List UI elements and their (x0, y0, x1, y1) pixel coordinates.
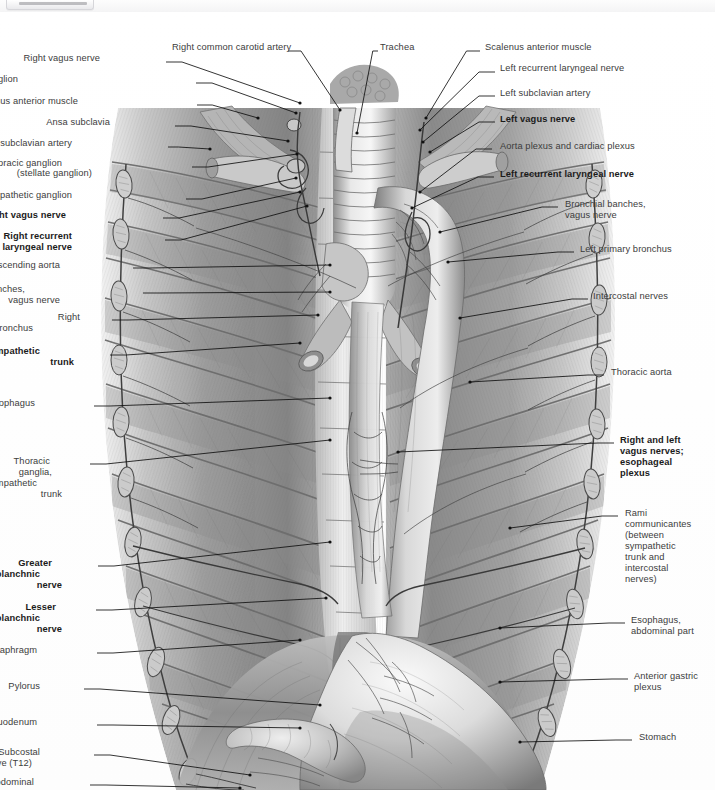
leader-dot-scalenus-anterior-muscle (424, 116, 427, 119)
leader-dot-left-recurrent-laryngeal-nerve (418, 128, 421, 131)
leader-dot-ansa-subclavia (286, 139, 289, 142)
label-right-and-left: Right and left (620, 435, 681, 446)
leader-dot-thoracic-aorta (468, 380, 471, 383)
label-intercostal-nerves: Intercostal nerves (593, 291, 668, 302)
label-nerve: nerve (37, 580, 62, 591)
label-trachea: Trachea (380, 42, 414, 53)
label-bronchial-banches: Bronchial banches, (565, 199, 646, 210)
leader-dot-sympathetic (298, 341, 301, 344)
label-primary-bronchus: primary bronchus (0, 323, 33, 334)
label-right: Right (58, 312, 80, 323)
leader-dot-rami (508, 526, 511, 529)
label-esophageal: esophageal (620, 457, 672, 468)
label-nerve-t12: nerve (T12) (0, 758, 32, 769)
label-esophagus: Esophagus, (631, 615, 681, 626)
label-vagus-nerves: vagus nerves; (620, 446, 684, 457)
leader-dot-left-subclavian-artery (421, 140, 424, 143)
leader-dot-diaphragm (298, 638, 301, 641)
label-plexus: plexus (634, 682, 661, 693)
leader-dot-right-subclavian-artery (208, 147, 211, 150)
label-right-vagus-nerve: Right vagus nerve (0, 210, 66, 221)
label-vagus-nerve: vagus nerve (8, 295, 60, 306)
label-sympathetic: Sympathetic (0, 346, 40, 357)
label-stomach: Stomach (639, 732, 676, 743)
label-subcostal: Subcostal (0, 747, 40, 758)
label-rami: Rami (625, 508, 647, 519)
leader-dot-stomach (518, 740, 521, 743)
leader-dot-ascending-aorta (328, 263, 331, 266)
label-sympathetic: sympathetic (625, 541, 676, 552)
leader-dot-duodenum (298, 726, 301, 729)
label-pylorus: Pylorus (8, 681, 40, 692)
viewer-tab-title-placeholder (19, 2, 87, 5)
leader-dot-abdominal (238, 786, 241, 789)
label-right-vagus-nerve: Right vagus nerve (23, 53, 100, 64)
label-vagus-nerve: vagus nerve (565, 210, 617, 221)
leader-dot-scalenus-anterior-muscle (256, 116, 259, 119)
label-trunk: trunk (41, 489, 62, 500)
label-abdominal: Abdominal (0, 777, 34, 788)
label-laryngeal-nerve: laryngeal nerve (2, 242, 72, 253)
label-right-common-carotid-artery: Right common carotid artery (172, 42, 291, 53)
leader-dot-subcostal (248, 773, 251, 776)
label-splanchnic: splanchnic (0, 569, 40, 580)
label-scalenus-anterior-muscle: Scalenus anterior muscle (0, 96, 78, 107)
label-left-recurrent-laryngeal-nerve: Left recurrent laryngeal nerve (500, 169, 634, 180)
label-aorta-plexus-and-cardiac-plexus: Aorta plexus and cardiac plexus (500, 141, 635, 152)
label-thoracic: Thoracic (14, 456, 50, 467)
leader-dot-thoracic (328, 438, 331, 441)
label-lesser: Lesser (25, 602, 56, 613)
leader-dot-aorta-plexus-and-cardiac-plexus (418, 190, 421, 193)
viewer-tab[interactable] (6, 0, 94, 10)
label-anterior-gastric: Anterior gastric (634, 671, 698, 682)
leader-dot-right-and-left (396, 450, 399, 453)
label-splanchnic: splanchnic (0, 613, 40, 624)
leader-dot-bronchial-banches (438, 230, 441, 233)
label-cervicothoracic-ganglion: Cervicothoracic ganglion (0, 158, 62, 169)
label-right-subclavian-artery: Right subclavian artery (0, 138, 72, 149)
anatomical-illustration (0, 12, 715, 790)
leader-dot-right-vagus-nerve (298, 101, 301, 104)
label-nerve: nerve (37, 624, 62, 635)
label-right-recurrent: Right recurrent (3, 231, 72, 242)
label-stellate-ganglion: (stellate ganglion) (17, 168, 92, 179)
leader-dot-esophagus (328, 396, 331, 399)
leader-dot-pylorus (318, 703, 321, 706)
label-between: (between (625, 530, 664, 541)
label-thoracic-aorta: Thoracic aorta (611, 367, 672, 378)
leader-dot-right-vagus-nerve (298, 190, 301, 193)
label-plexus: plexus (620, 468, 650, 479)
leader-dot-middle-cervical-sympathetic-ganglion (294, 111, 297, 114)
label-duodenum: Duodenum (0, 717, 37, 728)
leader-dot-anterior-gastric (498, 680, 501, 683)
label-left-primary-bronchus: Left primary bronchus (580, 244, 672, 255)
label-abdominal-part: abdominal part (631, 626, 694, 637)
anatomy-plate-page: Right vagus nerveMiddle cervical sympath… (0, 0, 715, 790)
leader-dot-cervicothoracic-ganglion (295, 152, 298, 155)
label-scalenus-anterior-muscle: Scalenus anterior muscle (485, 42, 592, 53)
label-trunk: trunk (50, 357, 74, 368)
label-left-recurrent-laryngeal-nerve: Left recurrent laryngeal nerve (500, 63, 624, 74)
label-ganglia: ganglia, (19, 467, 52, 478)
leader-dot-right-common-carotid-artery (338, 108, 341, 111)
leader-dot-sympathetic-ganglion (294, 176, 297, 179)
label-trunk-and: trunk and (625, 552, 665, 563)
leader-dot-trachea (355, 131, 358, 134)
label-nerves: nerves) (625, 574, 657, 585)
label-intercostal: intercostal (625, 563, 668, 574)
label-middle-cervical-sympathetic-ganglion: Middle cervical sympathetic ganglion (0, 74, 18, 85)
label-diaphragm: Diaphragm (0, 645, 37, 656)
leader-dot-greater (328, 540, 331, 543)
label-esophagus: Esophagus (0, 398, 35, 409)
leader-dot-bronchial-branches (328, 290, 331, 293)
label-ascending-aorta: Ascending aorta (0, 260, 60, 271)
leader-dot-left-recurrent-laryngeal-nerve (410, 206, 413, 209)
label-left-subclavian-artery: Left subclavian artery (500, 88, 590, 99)
label-sympathetic: sympathetic (0, 478, 37, 489)
leader-dot-intercostal-nerves (458, 316, 461, 319)
leader-dot-left-primary-bronchus (446, 260, 449, 263)
label-left-vagus-nerve: Left vagus nerve (500, 114, 575, 125)
leader-dot-esophagus (498, 626, 501, 629)
label-ansa-subclavia: Ansa subclavia (46, 117, 110, 128)
label-bronchial-branches: Bronchial branches, (0, 284, 25, 295)
